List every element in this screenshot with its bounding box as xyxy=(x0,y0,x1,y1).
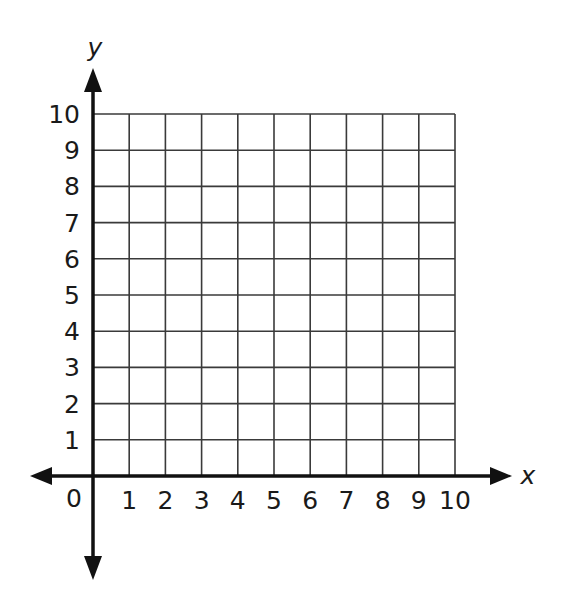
x-tick-label: 1 xyxy=(121,486,137,515)
y-tick-label: 2 xyxy=(64,390,80,419)
grid-lines xyxy=(93,114,455,476)
y-tick-labels: 12345678910 xyxy=(48,100,80,455)
coordinate-grid-chart: 12345678910 12345678910 0 x y xyxy=(0,0,573,591)
y-tick-label: 8 xyxy=(64,172,80,201)
y-axis-label: y xyxy=(87,33,104,62)
x-tick-labels: 12345678910 xyxy=(121,486,471,515)
y-tick-label: 6 xyxy=(64,245,80,274)
x-tick-label: 8 xyxy=(375,486,391,515)
y-axis-up-arrow-icon xyxy=(84,68,102,92)
y-axis-down-arrow-icon xyxy=(84,556,102,580)
y-tick-label: 7 xyxy=(64,209,80,238)
x-axis-right-arrow-icon xyxy=(490,467,512,485)
y-tick-label: 1 xyxy=(64,426,80,455)
x-tick-label: 3 xyxy=(194,486,210,515)
x-axis-left-arrow-icon xyxy=(30,467,52,485)
x-tick-label: 6 xyxy=(302,486,318,515)
x-tick-label: 9 xyxy=(411,486,427,515)
origin-label: 0 xyxy=(66,484,82,513)
x-tick-label: 5 xyxy=(266,486,282,515)
x-tick-label: 2 xyxy=(157,486,173,515)
x-tick-label: 4 xyxy=(230,486,246,515)
y-tick-label: 10 xyxy=(48,100,80,129)
y-tick-label: 3 xyxy=(64,353,80,382)
y-tick-label: 5 xyxy=(64,281,80,310)
x-axis-label: x xyxy=(520,461,536,490)
x-tick-label: 7 xyxy=(338,486,354,515)
x-tick-label: 10 xyxy=(439,486,471,515)
y-tick-label: 4 xyxy=(64,317,80,346)
y-tick-label: 9 xyxy=(64,136,80,165)
